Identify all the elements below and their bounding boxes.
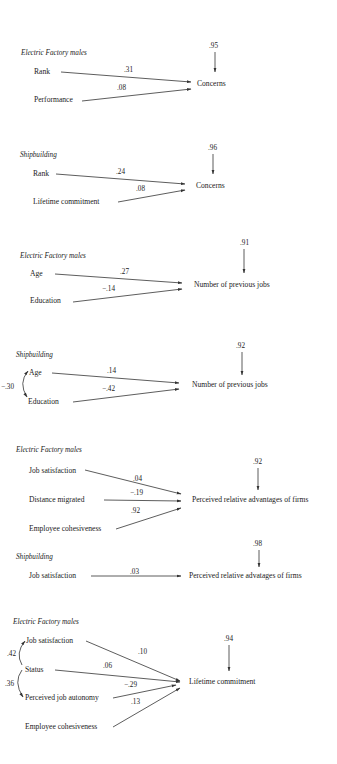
residual-value: .94 [224,636,233,643]
path-arrow [118,190,185,202]
path-coefficient: −.42 [102,386,115,393]
path-coefficient: .10 [138,649,147,656]
path-arrow [82,89,191,101]
predictor-label: Status [25,666,44,674]
dependent-variable: Number of previous jobs [192,381,268,389]
residual-value: .92 [236,343,245,350]
diagram-heading: Shipbuilding [16,554,53,561]
path-arrow [73,289,182,302]
path-coefficient: −.14 [102,286,115,293]
correlation-arc [23,371,28,397]
diagram-heading: Electric Factory males [21,50,87,57]
correlation-value: .36 [5,681,14,688]
predictor-label: Age [30,270,43,278]
predictor-label: Performance [34,96,73,104]
correlation-arc [18,670,23,697]
dependent-variable: Perceived relative advatages of firms [189,572,302,580]
path-coefficient: .27 [120,269,129,276]
predictor-label: Job satisfaction [29,572,76,580]
path-coefficient: .03 [130,569,139,576]
residual-value: .98 [253,541,262,548]
dependent-variable: Number of previous jobs [194,281,270,289]
diagram-heading: Electric Factory males [20,253,86,260]
predictor-label: Employee cohesiveness [25,723,97,731]
path-coefficient: .31 [124,67,133,74]
path-coefficient: .14 [107,368,116,375]
path-coefficient: .04 [133,476,142,483]
predictor-label: Employee cohesiveness [29,525,101,533]
path-arrow [86,641,180,681]
path-diagram-lines [0,0,337,764]
path-coefficient: .92 [131,508,140,515]
diagram-heading: Electric Factory males [13,619,79,626]
residual-value: .91 [240,240,249,247]
predictor-label: Rank [33,170,49,178]
path-coefficient: −.29 [124,682,137,689]
path-arrow [55,274,182,283]
dependent-variable: Concerns [197,80,226,88]
path-coefficient: .08 [136,186,145,193]
residual-value: .92 [253,459,262,466]
path-coefficient: .24 [116,169,125,176]
path-arrow [73,389,179,402]
correlation-arc [19,641,25,665]
dependent-variable: Lifetime commitment [189,678,255,686]
predictor-label: Distance migrated [29,496,84,504]
path-arrow [55,670,180,682]
path-arrow [116,508,181,529]
path-coefficient: .13 [131,699,140,706]
path-coefficient: −.19 [130,490,143,497]
predictor-label: Rank [34,68,50,76]
residual-value: .96 [208,145,217,152]
predictor-label: Education [28,398,59,406]
predictor-label: Job satisfaction [29,467,76,475]
diagram-heading: Shipbuilding [20,152,57,159]
diagram-heading: Shipbuilding [16,352,53,359]
residual-value: .95 [209,43,218,50]
correlation-value: .42 [7,651,16,658]
predictor-label: Education [30,297,61,305]
diagram-heading: Electric Factory males [16,447,82,454]
dependent-variable: Concerns [196,182,225,190]
path-arrow [104,500,181,501]
correlation-value: −.30 [1,384,14,391]
predictor-label: Lifetime commitment [33,198,99,206]
predictor-label: Perceived job autonomy [25,694,99,702]
predictor-label: Age [29,369,42,377]
path-arrow [113,688,180,727]
path-coefficient: .08 [117,85,126,92]
path-coefficient: .06 [103,663,112,670]
dependent-variable: Perceived relative advantages of firms [192,496,308,504]
predictor-label: Job satisfaction [26,637,73,645]
